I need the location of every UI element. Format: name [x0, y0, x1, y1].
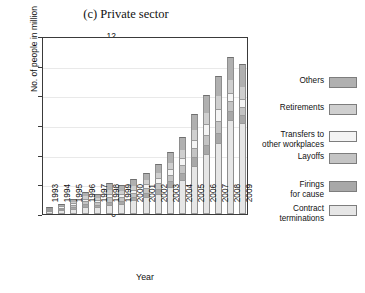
- legend-label: Layoffs: [252, 152, 329, 162]
- bar-segment: [227, 80, 234, 94]
- bar-segment: [167, 152, 174, 163]
- bar-segment: [239, 100, 246, 107]
- bar-segment: [227, 102, 234, 111]
- bar-segment: [215, 110, 222, 122]
- bar-segment: [239, 116, 246, 124]
- x-tick-label: 1994: [63, 184, 72, 218]
- bar-segment: [155, 164, 162, 173]
- bar-segment: [143, 173, 150, 180]
- legend-item[interactable]: Firingsfor cause: [252, 180, 365, 199]
- bar-segment: [215, 96, 222, 110]
- bar-segment: [191, 141, 198, 150]
- x-tick-label: 1998: [112, 184, 121, 218]
- legend-label: Transfers toother workplaces: [252, 130, 329, 149]
- chart-figure: (c) Private sector No. of people in mill…: [0, 0, 365, 293]
- bar-segment: [239, 108, 246, 116]
- bar-segment: [179, 166, 186, 174]
- x-tick-label: 1995: [75, 184, 84, 218]
- x-tick-label: 1993: [51, 184, 60, 218]
- bar-segment: [203, 95, 210, 113]
- bar-segment: [179, 159, 186, 166]
- bar-segment: [215, 134, 222, 144]
- bar-segment: [203, 113, 210, 125]
- legend-item[interactable]: Contractterminations: [252, 204, 365, 223]
- bar-segment: [215, 122, 222, 134]
- x-axis-label: Year: [42, 272, 248, 282]
- legend-label: Retirements: [252, 103, 329, 113]
- bar-segment: [239, 87, 246, 100]
- legend-swatch: [329, 77, 357, 88]
- bar-segment: [203, 136, 210, 147]
- legend-item[interactable]: Others: [252, 76, 365, 88]
- x-tick-label: 1999: [124, 184, 133, 218]
- x-tick-label: 2003: [172, 184, 181, 218]
- bar-segment: [227, 57, 234, 80]
- bar-segment: [227, 112, 234, 121]
- bar-segment: [203, 146, 210, 155]
- bar-segment: [179, 137, 186, 150]
- legend-swatch: [329, 131, 357, 142]
- bar-segment: [191, 158, 198, 166]
- legend-item[interactable]: Layoffs: [252, 152, 365, 164]
- legend-item[interactable]: Retirements: [252, 103, 365, 115]
- legend-label: Contractterminations: [252, 204, 329, 223]
- x-tick-label: 2002: [160, 184, 169, 218]
- legend-item[interactable]: Transfers toother workplaces: [252, 130, 365, 149]
- bar-segment: [215, 76, 222, 96]
- bar-segment: [191, 149, 198, 158]
- x-tick-label: 2007: [221, 184, 230, 218]
- x-tick-label: 2001: [148, 184, 157, 218]
- y-tick-mark: [38, 215, 42, 216]
- bar-segment: [203, 125, 210, 135]
- legend-label: Firingsfor cause: [252, 180, 329, 199]
- y-axis-label: No. of people in million: [29, 0, 39, 109]
- legend-swatch: [329, 181, 357, 192]
- bar-segment: [167, 163, 174, 171]
- legend-swatch: [329, 153, 357, 164]
- x-tick-label: 2000: [136, 184, 145, 218]
- bar-segment: [191, 130, 198, 141]
- legend-label: Others: [252, 76, 329, 86]
- x-tick-label: 2006: [209, 184, 218, 218]
- bar-segment: [227, 94, 234, 103]
- x-tick-label: 1997: [100, 184, 109, 218]
- legend-swatch: [329, 104, 357, 115]
- bar-segment: [239, 64, 246, 87]
- bar-segment: [179, 150, 186, 159]
- legend-swatch: [329, 205, 357, 216]
- bar-segment: [191, 114, 198, 130]
- x-tick-label: 2004: [185, 184, 194, 218]
- x-tick-label: 2005: [197, 184, 206, 218]
- bar-segment: [179, 174, 186, 181]
- x-tick-label: 1996: [88, 184, 97, 218]
- x-tick-label: 2008: [233, 184, 242, 218]
- gridline: [43, 68, 247, 69]
